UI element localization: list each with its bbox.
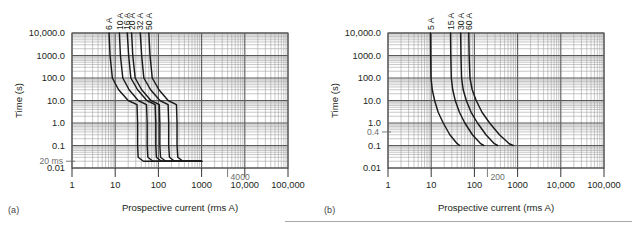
curve-labels: 5 A15 A30 A60 A [426, 13, 474, 30]
x-tick-label: 10,000 [547, 180, 575, 190]
curve-label-15a: 15 A [446, 13, 456, 30]
curve-15a [451, 33, 484, 146]
curve-group [430, 33, 513, 146]
x-tick-label: 10 [110, 180, 120, 190]
y-axis-title: Time (s) [329, 83, 340, 118]
curve-5a [430, 33, 459, 146]
y-tick-label: 100.0 [42, 73, 65, 83]
curve-label-6a: 6 A [104, 17, 114, 30]
x-tick-label: 10 [426, 180, 436, 190]
x-tick-label: 100 [151, 180, 167, 190]
curve-label-50a: 50 A [144, 13, 154, 30]
panel-a-tag: (a) [8, 205, 19, 215]
y-tick-label: 0.1 [368, 141, 381, 151]
x-tick-label: 1000 [191, 180, 212, 190]
x-axis-title: Prospective current (rms A) [438, 202, 554, 213]
curve-group [109, 33, 202, 161]
footer-divider [285, 221, 632, 222]
grid-lines [72, 33, 288, 168]
y-tick-labels: 0.010.11.010.0100.01000.010,000.0 [345, 28, 381, 173]
curve-30a [461, 33, 498, 146]
x-tick-label: 100 [467, 180, 483, 190]
curve-60a [469, 33, 513, 146]
y-tick-label: 1.0 [52, 118, 65, 128]
y-tick-label: 100.0 [358, 73, 381, 83]
y-axis-title: Time (s) [13, 83, 24, 118]
chart-b-canvas: 5 A15 A30 A60 A0.010.11.010.0100.01000.0… [316, 0, 632, 228]
x-tick-label: 1000 [507, 180, 528, 190]
y-tick-label: 10.0 [363, 96, 381, 106]
figure-tripping-characteristics: 6 A10 A16 A20 A32 A50 A0.010.11.010.0100… [0, 0, 632, 228]
y-tick-label: 10,000.0 [345, 28, 381, 38]
chart-panel-b: 5 A15 A30 A60 A0.010.11.010.0100.01000.0… [316, 0, 632, 228]
annotation-time: 0.4 [367, 127, 379, 137]
x-tick-label: 1 [385, 180, 390, 190]
panel-b-tag: (b) [324, 205, 335, 215]
y-tick-labels: 0.010.11.010.0100.01000.010,000.0 [29, 28, 65, 173]
annotations: 20 ms4000 [40, 156, 250, 182]
curve-label-60a: 60 A [464, 13, 474, 30]
axis-ticks [72, 168, 288, 177]
x-axis-title: Prospective current (rms A) [122, 202, 238, 213]
y-tick-label: 1000.0 [37, 51, 65, 61]
x-tick-label: 1 [69, 180, 74, 190]
annotation-current: 4000 [231, 172, 250, 182]
x-tick-label: 100,000 [271, 180, 305, 190]
chart-panel-a: 6 A10 A16 A20 A32 A50 A0.010.11.010.0100… [0, 0, 316, 228]
x-tick-labels: 110100100010,000100,000 [69, 180, 304, 190]
curve-label-5a: 5 A [426, 17, 436, 30]
chart-a-canvas: 6 A10 A16 A20 A32 A50 A0.010.11.010.0100… [0, 0, 316, 228]
annotation-time: 20 ms [40, 156, 63, 166]
y-tick-label: 10.0 [47, 96, 65, 106]
x-tick-label: 100,000 [587, 180, 621, 190]
curve-labels: 6 A10 A16 A20 A32 A50 A [104, 13, 154, 30]
y-tick-label: 1000.0 [353, 51, 381, 61]
y-tick-label: 10,000.0 [29, 28, 65, 38]
annotation-current: 200 [490, 172, 505, 182]
grid-lines [388, 33, 604, 168]
y-tick-label: 0.01 [363, 163, 381, 173]
y-tick-label: 0.1 [52, 141, 65, 151]
